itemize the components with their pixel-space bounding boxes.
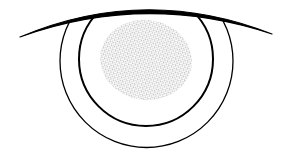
eye-diagram: Eye diagram — [0, 0, 287, 154]
eye-diagram-svg — [0, 0, 287, 154]
stippled-spot — [95, 14, 197, 106]
